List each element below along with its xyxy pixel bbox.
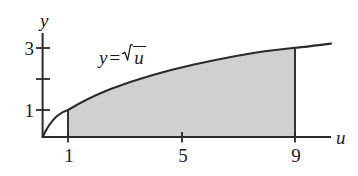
y-tick-label-3: 3: [18, 39, 34, 58]
radicand-value: u: [133, 46, 146, 67]
x-tick-label-5: 5: [174, 146, 192, 165]
x-tick-label-9: 9: [287, 146, 305, 165]
equation-operator: =: [107, 47, 122, 68]
curve-equation-label: y=u: [99, 45, 146, 67]
x-axis-label: u: [336, 128, 346, 147]
figure-area-under-curve: y u 1 5 9 1 3 y=u: [0, 0, 358, 176]
radical-expression: u: [122, 45, 146, 67]
x-tick-label-1: 1: [60, 146, 78, 165]
y-axis-label: y: [40, 11, 48, 30]
radical-sign-icon: [122, 44, 133, 61]
y-tick-label-1: 1: [18, 101, 34, 120]
